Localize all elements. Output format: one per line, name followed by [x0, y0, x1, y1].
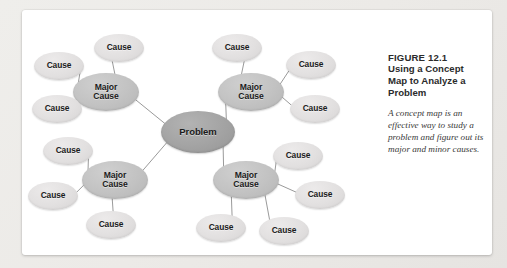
cause-bl-1-label: Cause: [56, 146, 81, 155]
cause-tr-3-label: Cause: [303, 104, 328, 113]
cause-bl-3[interactable]: Cause: [86, 211, 136, 239]
figure-description: A concept map is an effective way to stu…: [388, 107, 484, 156]
figure-title: Using a Concept Map to Analyze a Problem: [388, 63, 484, 99]
major-cause-bottom-left[interactable]: MajorCause: [82, 161, 148, 199]
cause-tl-2-label: Cause: [45, 104, 70, 113]
cause-tl-3[interactable]: Cause: [94, 34, 144, 62]
major-cause-bottom-left-label: MajorCause: [102, 171, 127, 190]
cause-tl-1[interactable]: Cause: [34, 52, 84, 80]
edge-major-cause-bottom-right-to-cause-br-4: [265, 195, 270, 221]
problem-node[interactable]: Problem: [161, 111, 235, 153]
cause-tl-1-label: Cause: [47, 61, 72, 70]
cause-br-4-label: Cause: [272, 226, 297, 235]
major-cause-top-right-label: MajorCause: [238, 83, 263, 102]
major-cause-top-left[interactable]: MajorCause: [73, 73, 139, 111]
cause-tr-1-label: Cause: [225, 43, 250, 52]
figure-caption-block: FIGURE 12.1 Using a Concept Map to Analy…: [388, 52, 484, 155]
major-cause-bottom-right-label: MajorCause: [233, 171, 258, 190]
cause-tl-2[interactable]: Cause: [32, 95, 82, 123]
concept-map-diagram: ProblemMajorCauseCauseCauseCauseMajorCau…: [22, 10, 378, 255]
cause-br-2-label: Cause: [308, 190, 333, 199]
cause-tr-2-label: Cause: [299, 60, 324, 69]
cause-bl-3-label: Cause: [99, 220, 124, 229]
cause-br-2[interactable]: Cause: [295, 181, 345, 209]
edge-major-cause-bottom-right-to-cause-br-2: [277, 184, 296, 193]
cause-tr-3[interactable]: Cause: [290, 95, 340, 123]
cause-bl-1[interactable]: Cause: [43, 137, 93, 165]
problem-node-label: Problem: [179, 127, 216, 137]
cause-br-4[interactable]: Cause: [259, 217, 309, 245]
figure-number: FIGURE 12.1: [388, 52, 484, 63]
figure-page: ProblemMajorCauseCauseCauseCauseMajorCau…: [0, 0, 507, 268]
cause-tl-3-label: Cause: [107, 43, 132, 52]
cause-br-3[interactable]: Cause: [196, 214, 246, 242]
cause-bl-2-label: Cause: [41, 191, 66, 200]
cause-tr-1[interactable]: Cause: [212, 34, 262, 62]
cause-tr-2[interactable]: Cause: [286, 51, 336, 79]
cause-br-1-label: Cause: [286, 151, 311, 160]
cause-bl-2[interactable]: Cause: [28, 182, 78, 210]
cause-br-3-label: Cause: [209, 223, 234, 232]
edge-major-cause-bottom-left-to-cause-bl-3: [112, 198, 113, 211]
major-cause-top-left-label: MajorCause: [93, 83, 118, 102]
major-cause-top-right[interactable]: MajorCause: [218, 73, 284, 111]
edge-problem-to-major-cause-bottom-left: [142, 142, 167, 171]
major-cause-bottom-right[interactable]: MajorCause: [213, 161, 279, 199]
edge-problem-to-major-cause-top-left: [135, 99, 165, 124]
edge-major-cause-top-right-to-cause-tr-2: [280, 71, 289, 85]
cause-br-1[interactable]: Cause: [273, 142, 323, 170]
edge-major-cause-bottom-right-to-cause-br-3: [231, 196, 232, 216]
